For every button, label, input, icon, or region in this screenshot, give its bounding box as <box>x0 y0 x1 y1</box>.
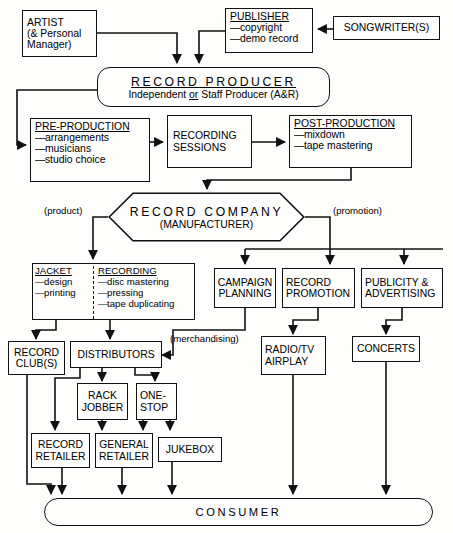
general-retailer-line1: GENERAL <box>99 439 149 450</box>
node-rack-jobber[interactable]: RACK JOBBER <box>77 383 128 420</box>
node-campaign-planning[interactable]: CAMPAIGN PLANNING <box>214 268 276 308</box>
record-retailer-line2: RETAILER <box>35 451 85 462</box>
distributors-label: DISTRIBUTORS <box>77 349 154 360</box>
node-one-stop[interactable]: ONE- STOP <box>136 383 177 420</box>
jacket-recording-divider <box>93 266 94 319</box>
artist-line2: (& Personal <box>27 28 81 39</box>
post-production-item-tape-mastering: tape mastering <box>294 140 408 151</box>
songwriter-label: SONGWRITER(S) <box>344 22 429 33</box>
node-record-promotion[interactable]: RECORD PROMOTION <box>282 268 355 308</box>
one-stop-line2: STOP <box>140 402 168 413</box>
radio-tv-airplay-line2: AIRPLAY <box>265 356 308 367</box>
general-retailer-line2: RETAILER <box>99 451 149 462</box>
record-producer-title: RECORD PRODUCER <box>131 75 296 89</box>
publisher-title: PUBLISHER <box>230 11 309 22</box>
record-club-line1: RECORD <box>14 347 59 358</box>
node-record-producer[interactable]: RECORD PRODUCER Independent or Staff Pro… <box>97 67 330 107</box>
record-promotion-line1: RECORD <box>286 277 331 288</box>
publicity-advertising-line1: PUBLICITY & <box>365 277 428 288</box>
consumer-label: CONSUMER <box>195 506 281 518</box>
node-jacket-recording[interactable]: JACKET design printing RECORDING disc ma… <box>32 263 195 320</box>
pre-production-title: PRE-PRODUCTION <box>35 121 146 132</box>
pre-production-item-musicians: musicians <box>35 143 146 154</box>
post-production-title: POST-PRODUCTION <box>294 118 408 129</box>
rack-jobber-line1: RACK <box>88 390 117 401</box>
record-retailer-line1: RECORD <box>38 439 83 450</box>
jacket-title: JACKET <box>35 265 93 276</box>
recording-title: RECORDING <box>98 265 194 276</box>
node-consumer[interactable]: CONSUMER <box>44 498 433 526</box>
edge-label-promotion: (promotion) <box>333 205 382 216</box>
publicity-advertising-line2: ADVERTISING <box>365 288 435 299</box>
artist-title: ARTIST <box>27 17 64 28</box>
node-jacket[interactable]: JACKET design printing <box>35 265 93 298</box>
campaign-planning-line2: PLANNING <box>218 288 271 299</box>
edge-label-product: (product) <box>44 205 82 216</box>
recording-item-disc-mastering: disc mastering <box>98 276 194 287</box>
one-stop-line1: ONE- <box>140 390 166 401</box>
node-jukebox[interactable]: JUKEBOX <box>158 437 222 462</box>
campaign-planning-line1: CAMPAIGN <box>218 277 273 288</box>
record-promotion-line2: PROMOTION <box>286 288 350 299</box>
node-post-production[interactable]: POST-PRODUCTION mixdown tape mastering <box>289 115 412 168</box>
record-company-title: RECORD COMPANY <box>108 205 305 219</box>
node-radio-tv-airplay[interactable]: RADIO/TV AIRPLAY <box>261 336 326 375</box>
node-pre-production[interactable]: PRE-PRODUCTION arrangements musicians st… <box>30 118 150 182</box>
node-songwriter[interactable]: SONGWRITER(S) <box>333 16 440 40</box>
node-publicity-advertising[interactable]: PUBLICITY & ADVERTISING <box>361 268 443 308</box>
pre-production-item-arrangements: arrangements <box>35 132 146 143</box>
record-company-text: RECORD COMPANY (MANUFACTURER) <box>108 205 305 230</box>
jukebox-label: JUKEBOX <box>166 444 215 455</box>
flowchart-canvas: ARTIST (& Personal Manager) PUBLISHER co… <box>0 0 453 533</box>
publisher-item-copyright: copyright <box>230 22 309 33</box>
node-distributors[interactable]: DISTRIBUTORS <box>70 341 162 368</box>
edge-label-merchandising: (merchandising) <box>170 333 239 344</box>
node-record-retailer[interactable]: RECORD RETAILER <box>31 433 90 468</box>
record-producer-subtitle: Independent or Staff Producer (A&R) <box>128 89 298 100</box>
node-record-company[interactable]: RECORD COMPANY (MANUFACTURER) <box>108 192 305 242</box>
node-general-retailer[interactable]: GENERAL RETAILER <box>95 433 153 468</box>
node-recording[interactable]: RECORDING disc mastering pressing tape d… <box>98 265 194 309</box>
post-production-item-mixdown: mixdown <box>294 129 408 140</box>
jacket-item-printing: printing <box>35 287 93 298</box>
node-record-club[interactable]: RECORD CLUB(S) <box>8 341 65 375</box>
artist-line3: Manager) <box>27 39 71 50</box>
node-artist[interactable]: ARTIST (& Personal Manager) <box>22 10 97 57</box>
node-concerts[interactable]: CONCERTS <box>352 336 420 362</box>
pre-production-item-studio-choice: studio choice <box>35 154 146 165</box>
rack-jobber-line2: JOBBER <box>82 402 124 413</box>
record-club-line2: CLUB(S) <box>16 358 58 369</box>
radio-tv-airplay-line1: RADIO/TV <box>265 344 314 355</box>
concerts-label: CONCERTS <box>357 343 415 354</box>
record-company-subtitle: (MANUFACTURER) <box>108 219 305 230</box>
recording-sessions-line1: RECORDING <box>173 130 237 141</box>
recording-item-tape-duplicating: tape duplicating <box>98 298 194 309</box>
node-publisher[interactable]: PUBLISHER copyright demo record <box>225 8 313 53</box>
publisher-item-demo-record: demo record <box>230 33 309 44</box>
jacket-item-design: design <box>35 276 93 287</box>
recording-item-pressing: pressing <box>98 287 194 298</box>
node-recording-sessions[interactable]: RECORDING SESSIONS <box>167 115 252 168</box>
recording-sessions-line2: SESSIONS <box>173 142 226 153</box>
